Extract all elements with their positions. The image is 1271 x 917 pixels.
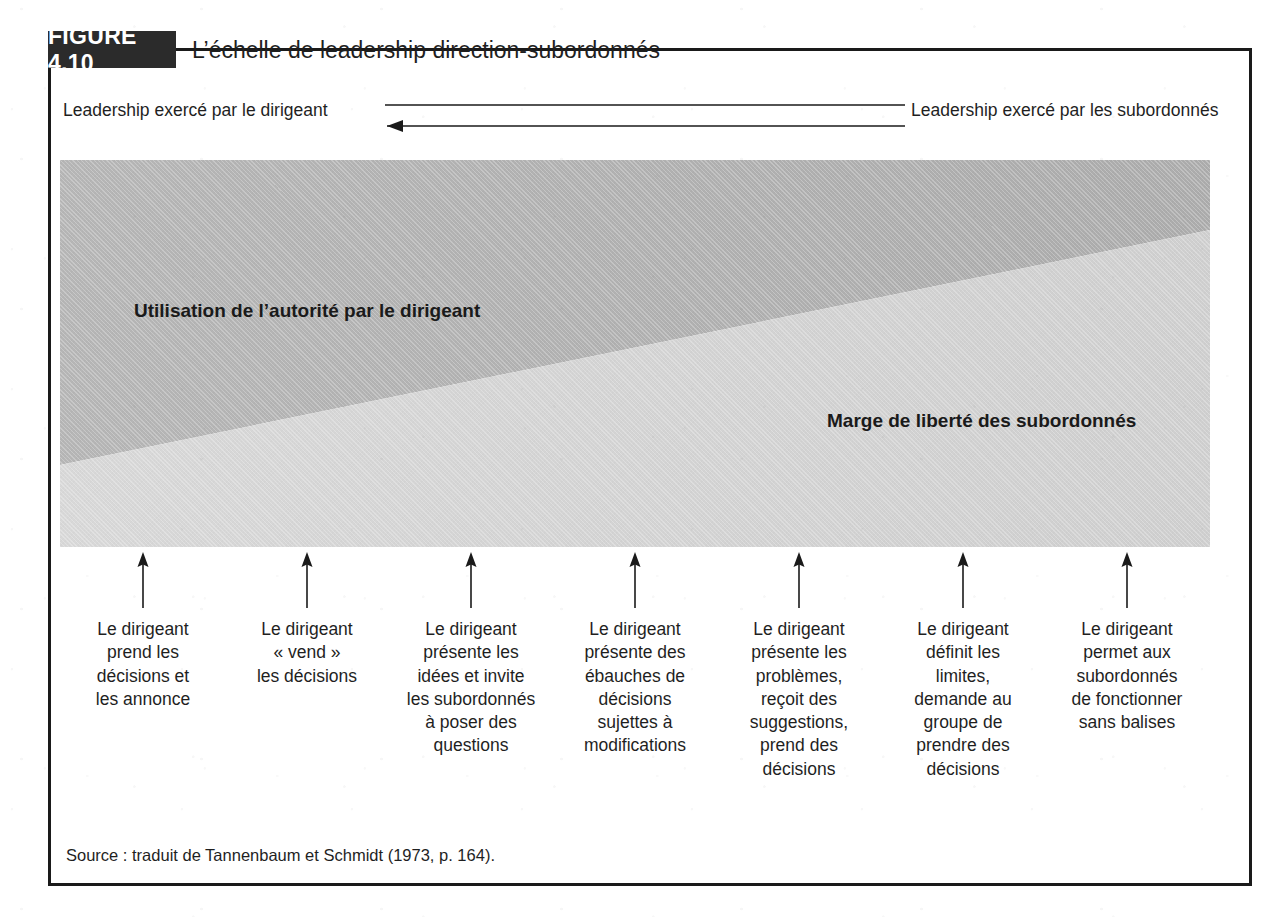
behaviour-column: Le dirigeant présente des ébauches de dé…	[560, 552, 710, 758]
behaviour-column-caption: Le dirigeant présente les idées et invit…	[407, 618, 535, 758]
behaviour-column: Le dirigeant définit les limites, demand…	[888, 552, 1038, 781]
behaviour-column-caption: Le dirigeant présente les problèmes, reç…	[750, 618, 848, 781]
behaviour-column: Le dirigeant « vend » les décisions	[232, 552, 382, 688]
behaviour-column-caption: Le dirigeant permet aux subordonnés de f…	[1072, 618, 1183, 734]
axis-arrow-pair	[345, 92, 905, 140]
arrow-up-icon	[627, 552, 643, 608]
behaviour-column: Le dirigeant présente les problèmes, reç…	[724, 552, 874, 781]
axis-label-right: Leadership exercé par les subordonnés	[911, 92, 1218, 128]
behaviour-column-caption: Le dirigeant « vend » les décisions	[257, 618, 357, 688]
arrow-up-icon	[135, 552, 151, 608]
behaviour-column: Le dirigeant permet aux subordonnés de f…	[1052, 552, 1202, 734]
arrow-up-icon	[791, 552, 807, 608]
leadership-axis-band: Leadership exercé par le dirigeant Leade…	[48, 92, 1252, 140]
diagonal-split-shape	[60, 160, 1210, 547]
arrow-up-icon	[299, 552, 315, 608]
axis-label-left: Leadership exercé par le dirigeant	[63, 92, 328, 128]
behaviour-column-caption: Le dirigeant définit les limites, demand…	[914, 618, 1011, 781]
behaviour-column: Le dirigeant présente les idées et invit…	[396, 552, 546, 758]
arrow-up-icon	[1119, 552, 1135, 608]
figure-number-badge: FIGURE 4.10	[48, 31, 176, 68]
panel-label-freedom: Marge de liberté des subordonnés	[827, 410, 1136, 432]
behaviour-column-caption: Le dirigeant présente des ébauches de dé…	[584, 618, 686, 758]
arrow-right-icon	[385, 99, 905, 111]
authority-freedom-panel: Utilisation de l’autorité par le dirigea…	[60, 160, 1210, 547]
behaviour-column: Le dirigeant prend les décisions et les …	[68, 552, 218, 711]
arrow-up-icon	[955, 552, 971, 608]
behaviour-column-caption: Le dirigeant prend les décisions et les …	[96, 618, 190, 711]
figure-title: L’échelle de leadership direction-subord…	[192, 32, 660, 68]
arrow-up-icon	[463, 552, 479, 608]
source-note: Source : traduit de Tannenbaum et Schmid…	[66, 846, 495, 865]
panel-label-authority: Utilisation de l’autorité par le dirigea…	[134, 300, 480, 322]
arrow-left-icon	[387, 120, 905, 132]
behaviour-columns: Le dirigeant prend les décisions et les …	[48, 552, 1252, 822]
